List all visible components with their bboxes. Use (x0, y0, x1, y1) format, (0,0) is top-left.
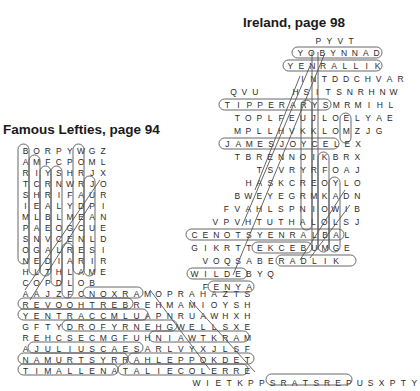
grid-letter: Z (220, 289, 231, 299)
grid-letter: L (341, 178, 352, 188)
grid-letter: E (164, 355, 175, 365)
grid-letter: L (64, 366, 75, 376)
grid-letter: R (120, 289, 131, 299)
grid-letter: V (200, 256, 211, 266)
grid-letter: Q (228, 87, 239, 97)
grid-letter: M (186, 300, 197, 310)
grid-letter: R (64, 355, 75, 365)
grid-letter: T (398, 378, 409, 388)
grid-letter: P (87, 201, 98, 211)
grid-letter: F (64, 190, 75, 200)
grid-letter: S (341, 217, 352, 227)
grid-letter: E (265, 256, 276, 266)
grid-letter: M (64, 212, 75, 222)
grid-letter: H (286, 217, 297, 227)
grid-letter: C (351, 74, 362, 84)
grid-letter: I (53, 256, 64, 266)
grid-letter: V (373, 74, 384, 84)
grid-letter: N (276, 230, 287, 240)
grid-letter: U (75, 344, 86, 354)
grid-letter: E (384, 113, 395, 123)
grid-letter: M (308, 191, 319, 201)
grid-letter: E (31, 311, 42, 321)
grid-letter: E (209, 366, 220, 376)
grid-row: COPDLOB (20, 278, 98, 288)
grid-letter: P (221, 217, 232, 227)
grid-letter: T (20, 179, 31, 189)
grid-row: YENTRACCMLUAPNRUAWHXH (20, 311, 253, 321)
grid-letter: N (131, 322, 142, 332)
grid-letter: B (320, 230, 331, 240)
grid-letter: T (233, 230, 244, 240)
grid-letter: A (374, 113, 385, 123)
grid-letter: I (64, 344, 75, 354)
grid-letter: C (75, 289, 86, 299)
grid-row: CENOTSYENRALBAL (189, 230, 352, 240)
grid-letter: O (64, 300, 75, 310)
grid-letter: C (287, 178, 298, 188)
grid-letter: E (320, 139, 331, 149)
grid-letter: C (175, 366, 186, 376)
grid-letter: H (20, 267, 31, 277)
grid-letter: A (287, 100, 298, 110)
grid-letter: D (330, 74, 341, 84)
grid-letter: N (31, 234, 42, 244)
grid-letter: H (31, 190, 42, 200)
grid-letter: Y (298, 165, 309, 175)
grid-letter: L (385, 100, 396, 110)
grid-letter: A (20, 344, 31, 354)
grid-letter: R (276, 256, 287, 266)
grid-letter: Y (324, 36, 335, 46)
grid-letter: I (202, 378, 213, 388)
grid-letter: A (142, 311, 153, 321)
grid-letter: I (98, 201, 109, 211)
grid-letter: L (98, 157, 109, 167)
grid-letter: E (296, 61, 307, 71)
grid-row: TIPPERARYSMRMIHL (222, 100, 396, 110)
grid-letter: D (98, 234, 109, 244)
grid-letter: B (352, 204, 363, 214)
grid-letter: L (75, 366, 86, 376)
grid-letter: H (220, 311, 231, 321)
grid-letter: S (320, 100, 331, 110)
grid-letter: M (320, 243, 331, 253)
grid-letter: H (243, 217, 254, 227)
grid-letter: T (254, 217, 265, 227)
grid-letter: W (189, 269, 200, 279)
grid-letter: R (75, 256, 86, 266)
grid-letter: T (231, 289, 242, 299)
grid-letter: K (235, 378, 246, 388)
puzzle-title: Famous Lefties, page 94 (3, 122, 160, 137)
grid-letter: N (42, 311, 53, 321)
grid-letter: M (98, 333, 109, 343)
grid-letter: A (42, 201, 53, 211)
grid-letter: A (330, 191, 341, 201)
grid-letter: T (346, 36, 357, 46)
grid-letter: L (64, 267, 75, 277)
grid-row: WIETKPPSRATSREPUSXPTY (191, 378, 420, 388)
grid-letter: R (297, 178, 308, 188)
grid-letter: L (53, 344, 64, 354)
grid-letter: E (231, 355, 242, 365)
grid-letter: F (42, 157, 53, 167)
grid-letter: H (276, 126, 287, 136)
grid-letter: D (75, 201, 86, 211)
grid-letter: J (222, 139, 233, 149)
grid-letter: A (31, 289, 42, 299)
grid-letter: D (42, 256, 53, 266)
grid-letter: D (220, 355, 231, 365)
grid-letter: X (352, 152, 363, 162)
grid-letter: L (64, 278, 75, 288)
grid-letter: L (142, 366, 153, 376)
grid-letter: A (289, 378, 300, 388)
grid-letter: H (142, 333, 153, 343)
grid-letter: O (87, 322, 98, 332)
grid-letter: I (233, 100, 244, 110)
grid-letter: M (142, 289, 153, 299)
grid-letter: W (243, 191, 254, 201)
grid-letter: R (20, 300, 31, 310)
grid-letter: I (53, 190, 64, 200)
grid-letter: A (64, 256, 75, 266)
grid-letter: H (290, 87, 301, 97)
grid-row: BWEYEGRMKADN (232, 191, 363, 201)
